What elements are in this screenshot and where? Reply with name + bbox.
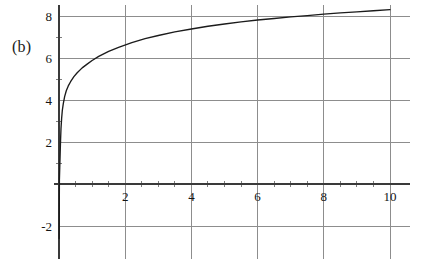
- curve-logarithmic-curve: [60, 10, 390, 142]
- y-tick-label-2: 2: [46, 135, 53, 150]
- y-tick-label-4: 4: [46, 93, 53, 108]
- y-tick-label-8: 8: [46, 9, 53, 24]
- plot-area: 246810 -22468: [0, 0, 424, 261]
- minor-tick-marks: [56, 37, 373, 187]
- x-tick-label-4: 4: [188, 189, 195, 204]
- x-tick-label-8: 8: [321, 189, 328, 204]
- vertical-gridlines: [125, 5, 390, 259]
- chart-figure: (b) 246810 -22468: [0, 0, 424, 261]
- x-tick-label-6: 6: [254, 189, 261, 204]
- x-tick-label-2: 2: [122, 189, 129, 204]
- data-curve: [59, 10, 390, 239]
- x-tick-label-10: 10: [384, 189, 397, 204]
- x-tick-labels: 246810: [122, 189, 397, 204]
- y-tick-label-6: 6: [46, 51, 53, 66]
- horizontal-gridlines: [58, 16, 410, 226]
- y-tick-labels: -22468: [41, 9, 52, 234]
- y-tick-label--2: -2: [41, 219, 52, 234]
- axis-lines: [54, 5, 410, 259]
